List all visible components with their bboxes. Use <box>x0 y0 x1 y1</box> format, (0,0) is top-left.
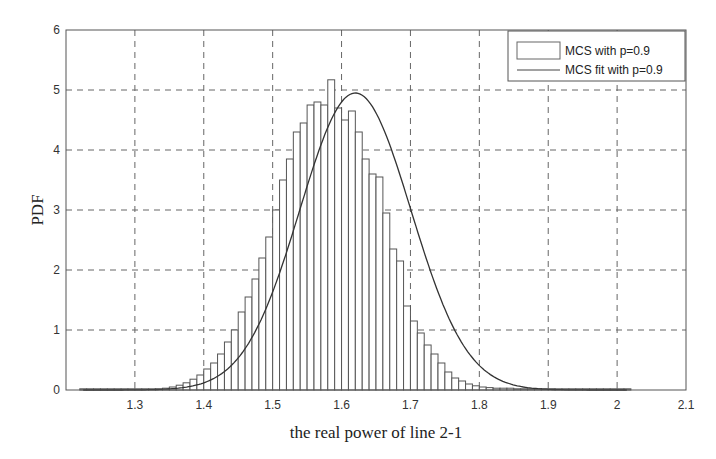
histogram-bar <box>362 159 369 390</box>
x-tick-label: 1.3 <box>127 398 144 412</box>
histogram-bar <box>452 378 459 390</box>
histogram-bar <box>390 249 397 390</box>
x-tick-label: 2.1 <box>678 398 695 412</box>
histogram-bar <box>431 354 438 390</box>
histogram-bar <box>376 177 383 390</box>
histogram-bar <box>314 102 321 390</box>
histogram-bar <box>204 369 211 390</box>
y-tick-label: 2 <box>53 263 60 277</box>
histogram-bar <box>300 123 307 390</box>
x-tick-label: 1.5 <box>264 398 281 412</box>
x-tick-label: 1.9 <box>540 398 557 412</box>
histogram-bar <box>335 108 342 390</box>
histogram-bar <box>307 105 314 390</box>
histogram-bar <box>286 159 293 390</box>
histogram-chart: 1.31.41.51.61.71.81.922.1 0123456 the re… <box>0 0 716 459</box>
x-axis-label: the real power of line 2-1 <box>290 423 462 442</box>
histogram-bar <box>197 375 204 390</box>
x-tick-label: 1.8 <box>471 398 488 412</box>
y-tick-label: 4 <box>53 143 60 157</box>
histogram-bar <box>445 372 452 390</box>
histogram-bar <box>472 386 479 390</box>
x-tick-label: 1.4 <box>195 398 212 412</box>
legend: MCS with p=0.9 MCS fit with p=0.9 <box>508 31 685 81</box>
legend-label-fit: MCS fit with p=0.9 <box>565 63 663 77</box>
histogram-bar <box>266 237 273 390</box>
x-tick-label: 1.6 <box>333 398 350 412</box>
histogram-bar <box>404 306 411 390</box>
legend-label-histogram: MCS with p=0.9 <box>565 44 650 58</box>
y-tick-label: 6 <box>53 23 60 37</box>
histogram-bar <box>280 180 287 390</box>
x-tick-label: 1.7 <box>402 398 419 412</box>
histogram-bar <box>355 132 362 390</box>
y-tick-label: 0 <box>53 383 60 397</box>
histogram-bar <box>383 213 390 390</box>
histogram-bar <box>397 261 404 390</box>
y-axis-label: PDF <box>28 194 47 225</box>
histogram-bar <box>293 132 300 390</box>
histogram-bar <box>369 174 376 390</box>
histogram-bar <box>424 345 431 390</box>
histogram-bar <box>438 363 445 390</box>
histogram-bar <box>410 321 417 390</box>
histogram-bar <box>417 333 424 390</box>
y-tick-label: 3 <box>53 203 60 217</box>
histogram-bar <box>348 111 355 390</box>
histogram-bar <box>321 105 328 390</box>
histogram-bar <box>459 381 466 390</box>
histogram-bar <box>273 210 280 390</box>
legend-histogram-swatch <box>517 42 560 59</box>
y-tick-label: 1 <box>53 323 60 337</box>
histogram-bar <box>342 120 349 390</box>
y-tick-label: 5 <box>53 83 60 97</box>
histogram-bar <box>466 384 473 390</box>
histogram-bar <box>259 258 266 390</box>
x-tick-label: 2 <box>614 398 621 412</box>
